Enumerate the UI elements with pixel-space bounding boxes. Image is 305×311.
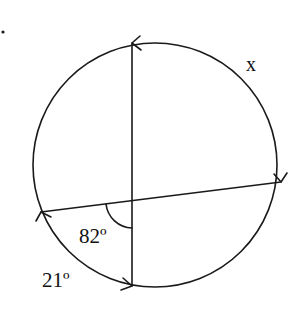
arc-x-label: x [246, 53, 256, 75]
slanted-chord [41, 182, 281, 212]
arrowhead-left-icon [36, 212, 51, 221]
angle-arc-82 [106, 204, 132, 228]
marker-dot [1, 30, 4, 33]
circle [33, 43, 277, 287]
angle-82-label: 82º [79, 224, 107, 248]
arc-21-label: 21º [42, 268, 70, 292]
circle-chords-diagram: x 82º 21º [0, 0, 305, 311]
arrowhead-top-icon [132, 36, 141, 50]
